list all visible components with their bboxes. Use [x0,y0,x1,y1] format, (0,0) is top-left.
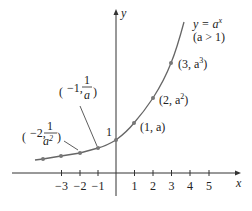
point-label-2: (2, a2) [159,92,188,107]
svg-text:1: 1 [47,119,53,133]
x-axis-label: x [235,176,242,190]
tick-label: 3 [169,179,175,193]
point-label-1: (1, a) [140,120,165,134]
exponential-chart: −3 −2 −1 1 2 3 4 5 x y y = ax (a > 1) (3… [0,0,252,211]
x-axis-arrow-icon [235,171,241,176]
svg-text:): ) [57,130,61,144]
svg-text:1: 1 [84,73,90,87]
svg-text:a: a [84,88,90,102]
tick-label: −3 [55,179,68,193]
tick-label: 5 [206,179,212,193]
tick-label: 1 [132,179,138,193]
tick-label: −1 [92,179,105,193]
svg-text:(: ( [59,85,63,99]
svg-text:(: ( [22,130,26,144]
y-axis-arrow-icon [114,9,119,15]
data-points [41,61,173,161]
function-label: y = ax [192,16,222,31]
tick-label: −2 [74,179,87,193]
y-intercept-label: 1 [106,125,112,139]
point-label-neg1: ( −1, 1 a ) [59,73,97,146]
point-label-3: (3, a3) [178,56,207,71]
condition-label: (a > 1) [193,30,225,44]
svg-text:−1,: −1, [67,81,83,95]
point-label-neg2: ( −2, 1 a2 ) [22,119,78,150]
tick-label: 4 [187,179,193,193]
svg-text:): ) [93,85,97,99]
svg-text:a2: a2 [43,134,53,148]
tick-label: 2 [150,179,156,193]
y-axis-label: y [120,6,127,20]
